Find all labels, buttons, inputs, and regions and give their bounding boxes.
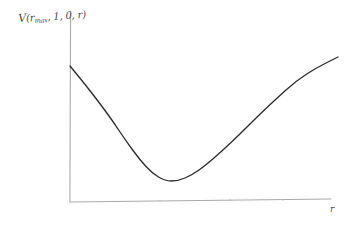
x-axis-label: r [330, 205, 334, 214]
y-axis-label-arg1-subscript: max [34, 16, 48, 25]
x-axis [70, 199, 331, 202]
y-axis-label-close-paren: ) [82, 9, 86, 20]
sketch-figure [0, 0, 352, 226]
y-axis-label-args: , 1, 0, [47, 9, 78, 22]
potential-curve [70, 57, 338, 181]
y-axis [70, 11, 71, 202]
